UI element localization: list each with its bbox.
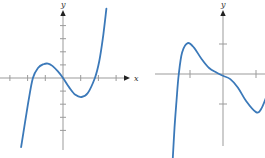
x-axis-arrow-icon [124, 75, 130, 80]
y-axis-arrow-icon [60, 10, 65, 16]
function-curve [173, 43, 265, 158]
right-graph: y [155, 0, 265, 158]
two-graphs-figure: xyy [0, 0, 265, 158]
figure-svg: xyy [0, 0, 265, 158]
y-axis-label: y [60, 0, 66, 9]
y-axis-label: y [220, 0, 226, 9]
left-graph: xy [0, 0, 139, 150]
y-axis-arrow-icon [220, 10, 225, 16]
x-axis-label: x [134, 74, 139, 83]
